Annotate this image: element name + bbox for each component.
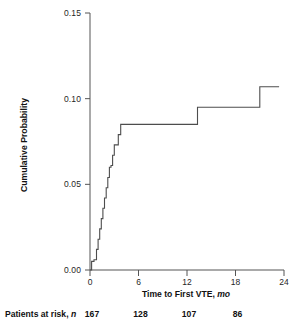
- y-axis-title: Cumulative Probability: [19, 80, 29, 210]
- kaplan-meier-figure: 0.00 0.05 0.10 0.15 0 6 12 18 24 Cumulat…: [0, 0, 300, 330]
- ytick-label-1: 0.05: [55, 179, 81, 189]
- risk-value-2: 107: [174, 309, 204, 319]
- x-axis-title-main: Time to First VTE,: [142, 289, 215, 299]
- patients-at-risk-label: Patients at risk, n: [5, 309, 76, 319]
- ytick-label-0: 0.00: [55, 265, 81, 275]
- ytick-label-3: 0.15: [55, 8, 81, 18]
- y-tick-marks: [85, 13, 90, 270]
- km-step-curve: [90, 87, 279, 270]
- x-tick-marks: [90, 270, 284, 276]
- risk-value-0: 167: [77, 309, 107, 319]
- risk-value-3: 86: [223, 309, 253, 319]
- risk-value-1: 128: [126, 309, 156, 319]
- xtick-label-0: 0: [78, 277, 102, 287]
- x-axis-title: Time to First VTE, mo: [90, 289, 282, 299]
- xtick-label-3: 18: [224, 277, 248, 287]
- xtick-label-2: 12: [175, 277, 199, 287]
- patients-at-risk-table: Patients at risk, n 167 128 107 86: [0, 309, 300, 325]
- xtick-label-4: 24: [272, 277, 296, 287]
- patients-at-risk-label-unit: n: [71, 309, 76, 319]
- x-axis-title-unit: mo: [217, 289, 230, 299]
- xtick-label-1: 6: [127, 277, 151, 287]
- ytick-label-2: 0.10: [55, 94, 81, 104]
- patients-at-risk-label-main: Patients at risk,: [5, 309, 69, 319]
